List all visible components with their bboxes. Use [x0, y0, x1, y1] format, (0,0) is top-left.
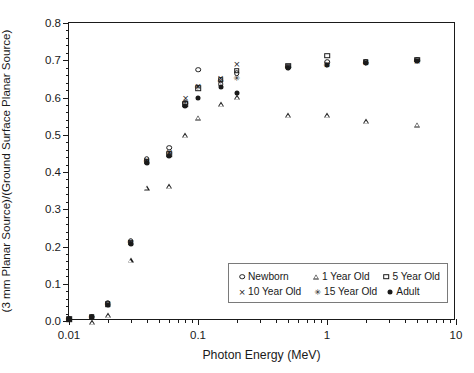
y-axis-minor-tick	[66, 83, 70, 84]
y-axis-minor-tick	[66, 157, 70, 158]
data-point	[89, 315, 94, 320]
x-axis-tick	[198, 319, 199, 325]
legend-label: Newborn	[248, 271, 289, 282]
y-axis-minor-tick	[66, 165, 70, 166]
y-axis-minor-tick	[66, 232, 70, 233]
data-point	[195, 115, 201, 120]
y-axis-minor-tick	[66, 239, 70, 240]
circle-open-icon	[236, 271, 248, 283]
data-point: ✳	[195, 83, 202, 91]
legend-entry-1-year-old: 1 Year Old	[310, 271, 380, 283]
y-axis-minor-tick	[66, 112, 70, 113]
data-point	[325, 63, 330, 68]
y-axis-tick-label: 0.2	[21, 241, 61, 253]
y-axis-minor-tick	[66, 45, 70, 46]
data-point	[182, 132, 188, 137]
y-axis-tick-label: 0.7	[21, 54, 61, 66]
y-axis-minor-tick	[66, 202, 70, 203]
y-axis-minor-tick	[66, 299, 70, 300]
data-point	[166, 183, 172, 188]
data-point	[218, 101, 224, 106]
data-point	[195, 67, 201, 73]
legend-label: 5 Year Old	[392, 271, 440, 282]
data-point	[414, 122, 420, 127]
y-axis-minor-tick	[66, 127, 70, 128]
x-axis-minor-tick	[298, 319, 299, 323]
legend-entry-10-year-old: × 10 Year Old	[236, 286, 312, 298]
y-axis-minor-tick	[66, 276, 70, 277]
x-axis-minor-tick	[314, 319, 315, 323]
legend-label: 1 Year Old	[322, 271, 370, 282]
y-axis-minor-tick	[66, 142, 70, 143]
x-axis-minor-tick	[427, 319, 428, 323]
legend-entry-15-year-old: ✳ 15 Year Old	[312, 286, 384, 298]
x-axis-minor-tick	[405, 319, 406, 323]
x-axis-tick-label: 0.1	[190, 329, 206, 341]
triangle-open-icon	[310, 271, 322, 283]
y-axis-tick	[63, 135, 69, 136]
y-axis-minor-tick	[66, 306, 70, 307]
y-axis-tick	[63, 60, 69, 61]
data-point	[167, 154, 172, 159]
y-axis-minor-tick	[66, 291, 70, 292]
y-axis-tick	[63, 98, 69, 99]
x-axis-tick	[456, 319, 457, 325]
y-axis-tick-label: 0.5	[21, 129, 61, 141]
legend-row: × 10 Year Old ✳ 15 Year Old Adult	[236, 284, 440, 299]
x-axis-minor-tick	[443, 319, 444, 323]
data-point	[234, 91, 239, 96]
y-axis-minor-tick	[66, 224, 70, 225]
y-axis-tick-label: 0.1	[21, 278, 61, 290]
legend-row: Newborn 1 Year Old 5 Year Old	[236, 269, 440, 284]
data-point: ✳	[233, 74, 240, 82]
x-axis-tick-label: 1	[324, 329, 330, 341]
y-axis-minor-tick	[66, 179, 70, 180]
x-axis-minor-tick	[276, 319, 277, 323]
y-axis-tick	[63, 247, 69, 248]
y-axis-tick	[63, 209, 69, 210]
y-axis-tick-label: 0.0	[21, 315, 61, 327]
y-axis-minor-tick	[66, 90, 70, 91]
square-open-icon	[380, 271, 392, 283]
data-point	[285, 112, 291, 117]
data-point	[218, 85, 223, 90]
y-axis-tick	[63, 23, 69, 24]
x-axis-minor-tick	[366, 319, 367, 323]
y-axis-tick-label: 0.4	[21, 166, 61, 178]
x-axis-minor-tick	[436, 319, 437, 323]
data-point	[363, 119, 369, 124]
legend-entry-newborn: Newborn	[236, 271, 310, 283]
cross-icon: ×	[236, 286, 248, 298]
y-axis-tick-label: 0.3	[21, 203, 61, 215]
x-axis-minor-tick	[108, 319, 109, 323]
circle-filled-icon	[384, 286, 396, 298]
x-axis-minor-tick	[237, 319, 238, 323]
legend-entry-adult: Adult	[384, 286, 440, 298]
data-point	[144, 185, 150, 190]
y-axis-minor-tick	[66, 187, 70, 188]
data-point	[128, 257, 134, 262]
x-axis-minor-tick	[417, 319, 418, 323]
x-axis-minor-tick	[169, 319, 170, 323]
star-x-icon: ✳	[312, 286, 324, 298]
x-axis-minor-tick	[178, 319, 179, 323]
data-point	[128, 241, 133, 246]
y-axis-minor-tick	[66, 194, 70, 195]
y-axis-tick-label: 0.8	[21, 17, 61, 29]
legend-label: 10 Year Old	[248, 286, 301, 297]
data-point	[324, 113, 330, 118]
data-point	[105, 302, 110, 307]
legend-label: Adult	[396, 286, 419, 297]
y-axis-minor-tick	[66, 217, 70, 218]
data-point	[105, 313, 111, 318]
y-axis-minor-tick	[66, 254, 70, 255]
x-axis-tick	[327, 319, 328, 325]
y-axis-minor-tick	[66, 269, 70, 270]
x-axis-title: Photon Energy (MeV)	[68, 348, 455, 362]
x-axis-minor-tick	[389, 319, 390, 323]
y-axis-tick	[63, 172, 69, 173]
data-point: ×	[233, 60, 240, 69]
y-axis-minor-tick	[66, 314, 70, 315]
y-axis-minor-tick	[66, 75, 70, 76]
y-axis-tick	[63, 284, 69, 285]
